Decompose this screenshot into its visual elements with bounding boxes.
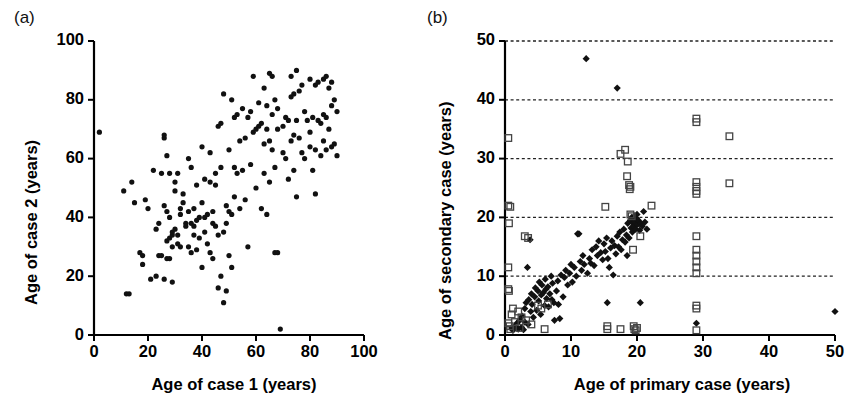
data-point [583,55,590,62]
data-point [316,80,321,85]
data-point [164,153,169,158]
data-point [310,115,315,120]
data-point [205,241,210,246]
data-point [191,224,196,229]
data-point [726,180,733,187]
data-point [280,150,285,155]
data-point [307,77,312,82]
data-point [604,299,611,306]
data-point [262,85,267,90]
data-point [612,250,619,257]
data-point [148,277,153,282]
data-point [189,165,194,170]
data-point [270,112,275,117]
data-point [210,256,215,261]
data-point [307,130,312,135]
data-point [610,271,617,278]
data-point [121,188,126,193]
data-point [506,220,513,227]
data-point [286,118,291,123]
data-point [334,109,339,114]
data-point [172,180,177,185]
data-point [226,253,231,258]
data-point [218,165,223,170]
data-point [559,293,566,300]
data-point [251,74,256,79]
data-point [197,235,202,240]
data-point [172,227,177,232]
data-point [164,209,169,214]
data-point [172,188,177,193]
data-point [224,221,229,226]
data-point [237,138,242,143]
data-point [248,162,253,167]
data-point [186,244,191,249]
data-point [291,91,296,96]
data-point [693,179,700,186]
data-point [548,273,555,280]
data-point [216,232,221,237]
data-point [264,103,269,108]
data-point [162,132,167,137]
data-point [221,230,226,235]
data-point [178,212,183,217]
data-point [294,118,299,123]
data-point [132,200,137,205]
data-point [297,88,302,93]
data-point [553,287,560,294]
series-filled-diamond [508,55,839,334]
data-point [210,209,215,214]
figure-container: (a) Age of case 2 (years) Age of case 1 … [0,0,849,412]
data-point [270,74,275,79]
data-point [199,265,204,270]
data-point [542,276,549,283]
data-point [283,156,288,161]
data-point [97,130,102,135]
data-point [726,133,733,140]
data-point [264,127,269,132]
data-point [213,224,218,229]
data-point [302,109,307,114]
data-point [191,206,196,211]
panel-a: (a) Age of case 2 (years) Age of case 1 … [0,0,424,412]
data-point [318,121,323,126]
data-point [156,221,161,226]
data-point [170,244,175,249]
data-point [162,203,167,208]
data-point [232,194,237,199]
data-point [194,182,199,187]
data-point [245,115,250,120]
data-point [186,209,191,214]
data-point [294,68,299,73]
data-point [291,168,296,173]
data-point [167,256,172,261]
data-point [693,320,700,327]
data-point [267,138,272,143]
data-point [275,127,280,132]
panel-a-plot-area [0,0,424,412]
data-point [289,74,294,79]
data-point [617,151,624,158]
data-point [183,224,188,229]
data-point [167,171,172,176]
data-point [218,274,223,279]
data-point [324,147,329,152]
data-point [310,168,315,173]
data-point [541,326,548,333]
data-point [299,150,304,155]
data-point [599,256,606,263]
data-point [248,109,253,114]
data-point [640,208,647,215]
series-filled-circle [97,68,340,332]
data-point [243,197,248,202]
data-point [191,232,196,237]
data-point [229,265,234,270]
data-point [240,106,245,111]
data-point [275,250,280,255]
data-point [297,135,302,140]
data-point [693,233,700,240]
data-point [326,85,331,90]
data-point [253,185,258,190]
data-point [159,171,164,176]
data-point [232,165,237,170]
